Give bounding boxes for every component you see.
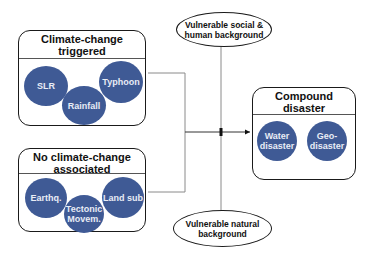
outcome-node-water-disaster: Water disaster [257,121,297,161]
group-no-climate-change-associated: No climate-change associated Earthq. Tec… [18,148,146,232]
hazard-node-slr: SLR [24,66,68,106]
group-climate-change-triggered: Climate-change triggered SLR Rainfall Ty… [18,30,146,126]
hazard-node-typhoon: Typhoon [99,61,143,103]
outcome-node-geo-disaster: Geo- disaster [307,121,347,161]
group-compound-disaster: Compound disaster Water disaster Geo- di… [252,87,356,180]
group-title: No climate-change associated [19,149,145,174]
hazard-node-tectonic-movement: Tectonic Movem. [64,195,104,233]
hazard-node-earthquake: Earthq. [25,178,67,218]
modifier-natural-background: Vulnerable natural background [173,210,272,247]
group-title: Climate-change triggered [19,31,145,59]
modifier-social-human-background: Vulnerable social & human background [176,12,272,47]
hazard-node-land-subsidence: Land sub [102,177,144,218]
hazard-node-rainfall: Rainfall [62,86,106,125]
group-title: Compound disaster [253,88,355,115]
